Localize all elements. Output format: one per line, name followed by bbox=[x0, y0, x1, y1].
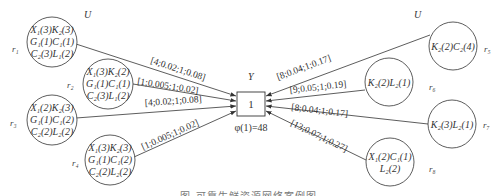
network-diagram: U U [4;0.02;1;0.08] [1;0.005;1;0.02] [4;… bbox=[0, 0, 497, 196]
node-r5: K₂(2)C₂(4) r₅ bbox=[429, 22, 491, 70]
edge-label-r5: [8;0.04;1;0.17] bbox=[275, 53, 332, 82]
node-label-r1: r₁ bbox=[12, 44, 19, 54]
center-top-label: Y bbox=[248, 71, 255, 82]
node-r6: K₂(2)L₂(1) r₆ bbox=[365, 58, 436, 106]
node-r8: X₁(2)C₁(1) L₂(2) r₈ bbox=[366, 138, 436, 186]
svg-text:K₂(2)C₂(4): K₂(2)C₂(4) bbox=[430, 41, 475, 53]
svg-text:X₁(3)K₂(2): X₁(3)K₂(2) bbox=[85, 66, 130, 78]
node-label-r2: r₂ bbox=[67, 80, 74, 90]
edge-label-r2: [1;0.005;1;0.02] bbox=[137, 76, 200, 96]
svg-text:C₂(2)L₂(2): C₂(2)L₂(2) bbox=[31, 126, 74, 138]
svg-text:C₂(2)L₂(2): C₂(2)L₂(2) bbox=[89, 166, 132, 178]
edge-label-r4: [1;0.005;1;0.02] bbox=[140, 118, 200, 152]
node-label-r5: r₅ bbox=[484, 44, 491, 54]
figure-caption: 图 可靠生鲜资源网络案例图 bbox=[0, 188, 497, 196]
node-r1: X₁(3)K₂(3) G₁(1)C₁(1) C₂(3)L₁(2) r₁ bbox=[12, 17, 77, 67]
center-node-value: 1 bbox=[248, 98, 254, 110]
center-bottom-label: φ(1)=48 bbox=[234, 122, 267, 134]
edge-label-r7: [8;0.04;1;0.17] bbox=[291, 102, 349, 119]
node-r3: X₁(2)K₂(3) G₁(1)C₁(2) C₂(2)L₂(2) r₃ bbox=[10, 95, 77, 145]
svg-text:K₂(3)L₂(1): K₂(3)L₂(1) bbox=[430, 119, 474, 131]
svg-text:G₁(1)C₁(1): G₁(1)C₁(1) bbox=[86, 78, 131, 90]
node-r2: X₁(3)K₂(2) G₁(1)C₁(1) C₂(3)L₁(2) r₂ bbox=[67, 59, 133, 109]
edge-label-r3: [4;0.02;1;0.08] bbox=[144, 94, 202, 108]
node-label-r3: r₃ bbox=[10, 118, 17, 128]
svg-text:G₁(1)C₁(2): G₁(1)C₁(2) bbox=[30, 114, 75, 126]
svg-text:L₂(2): L₂(2) bbox=[379, 163, 401, 175]
node-label-r8: r₈ bbox=[429, 164, 436, 174]
node-label-r6: r₆ bbox=[429, 82, 436, 92]
node-r7: K₂(3)L₂(1) r₇ bbox=[428, 100, 490, 148]
svg-text:G₁(1)C₁(1): G₁(1)C₁(1) bbox=[30, 36, 75, 48]
left-group-label: U bbox=[84, 9, 92, 20]
svg-text:X₁(2)C₁(1): X₁(2)C₁(1) bbox=[367, 151, 412, 163]
svg-text:X₁(2)K₂(3): X₁(2)K₂(3) bbox=[29, 102, 74, 114]
edge-label-r8: [13;0.07;1;0.27] bbox=[289, 118, 349, 154]
node-label-r7: r₇ bbox=[483, 120, 490, 130]
node-label-r4: r₄ bbox=[72, 158, 79, 168]
node-r4: X₁(3)K₂(3) G₁(1)C₁(2) C₂(2)L₂(2) r₄ bbox=[72, 135, 135, 185]
svg-text:G₁(1)C₁(2): G₁(1)C₁(2) bbox=[88, 154, 133, 166]
svg-text:C₂(3)L₁(2): C₂(3)L₁(2) bbox=[87, 90, 130, 102]
right-group-label: U bbox=[414, 9, 422, 20]
edge-r4 bbox=[134, 111, 236, 157]
svg-text:X₁(3)K₂(3): X₁(3)K₂(3) bbox=[29, 24, 74, 36]
svg-text:C₂(3)L₁(2): C₂(3)L₁(2) bbox=[31, 48, 74, 60]
svg-text:K₂(2)L₂(1): K₂(2)L₂(1) bbox=[367, 77, 411, 89]
svg-text:X₁(3)K₂(3): X₁(3)K₂(3) bbox=[87, 142, 132, 154]
